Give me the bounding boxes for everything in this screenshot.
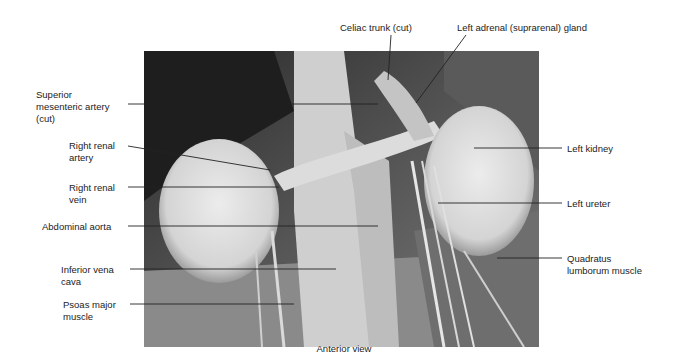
label-quadratus-lumborum-muscle: Quadratus lumborum muscle — [567, 253, 642, 277]
label-celiac-trunk: Celiac trunk (cut) — [340, 22, 412, 34]
view-caption: Anterior view — [0, 343, 688, 354]
label-inferior-vena-cava: Inferior vena cava — [61, 264, 114, 288]
label-superior-mesenteric-artery: Superior mesenteric artery (cut) — [36, 89, 109, 125]
label-right-renal-artery: Right renal artery — [50, 140, 140, 164]
label-left-ureter: Left ureter — [567, 198, 610, 210]
dissection-photo — [144, 51, 539, 347]
label-psoas-major-muscle: Psoas major muscle — [63, 299, 116, 323]
label-left-adrenal-gland: Left adrenal (suprarenal) gland — [457, 22, 587, 34]
label-abdominal-aorta: Abdominal aorta — [42, 221, 111, 233]
label-left-kidney: Left kidney — [567, 143, 613, 155]
label-right-renal-vein: Right renal vein — [69, 182, 115, 206]
